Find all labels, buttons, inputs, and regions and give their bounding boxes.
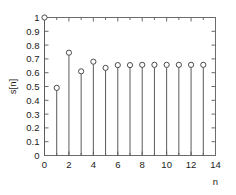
x-tick-label: 4 bbox=[91, 159, 96, 170]
figure-container: 0246810121400.10.20.30.40.50.60.70.80.91… bbox=[0, 0, 236, 195]
y-tick-label: 0.1 bbox=[26, 136, 39, 147]
x-tick-label: 2 bbox=[66, 159, 71, 170]
stem-plot: 0246810121400.10.20.30.40.50.60.70.80.91… bbox=[0, 0, 236, 195]
data-point-marker bbox=[127, 63, 132, 68]
y-tick-label: 0.8 bbox=[26, 40, 39, 51]
x-tick-label: 6 bbox=[115, 159, 120, 170]
y-axis-title: s[n] bbox=[7, 79, 18, 94]
x-tick-label: 8 bbox=[140, 159, 145, 170]
data-point-marker bbox=[115, 63, 120, 68]
x-tick-label: 0 bbox=[42, 159, 47, 170]
x-axis-title: n bbox=[213, 176, 218, 187]
y-tick-label: 0.3 bbox=[26, 109, 39, 120]
x-tick-label: 14 bbox=[210, 159, 221, 170]
data-point-marker bbox=[103, 65, 108, 70]
y-tick-label: 0.5 bbox=[26, 81, 39, 92]
y-tick-label: 0.4 bbox=[26, 95, 39, 106]
data-point-marker bbox=[42, 15, 47, 20]
data-point-marker bbox=[66, 50, 71, 55]
data-point-marker bbox=[91, 59, 96, 64]
data-point-marker bbox=[79, 69, 84, 74]
data-point-marker bbox=[140, 62, 145, 67]
y-tick-label: 0.6 bbox=[26, 67, 39, 78]
y-tick-label: 0 bbox=[34, 150, 39, 161]
y-tick-label: 0.7 bbox=[26, 53, 39, 64]
y-tick-label: 0.9 bbox=[26, 26, 39, 37]
x-tick-label: 10 bbox=[161, 159, 172, 170]
data-point-marker bbox=[54, 85, 59, 90]
data-point-marker bbox=[201, 62, 206, 67]
x-tick-label: 12 bbox=[186, 159, 197, 170]
y-tick-label: 1 bbox=[34, 12, 39, 23]
data-point-marker bbox=[164, 62, 169, 67]
data-point-marker bbox=[176, 62, 181, 67]
y-tick-label: 0.2 bbox=[26, 122, 39, 133]
data-point-marker bbox=[188, 62, 193, 67]
data-point-marker bbox=[152, 62, 157, 67]
